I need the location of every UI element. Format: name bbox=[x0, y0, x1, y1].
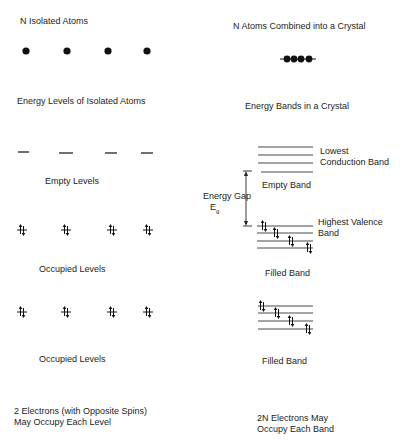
occupied-levels-label-lower: Occupied Levels bbox=[39, 354, 106, 364]
empty-levels bbox=[18, 152, 153, 153]
filled-band-label-upper: Filled Band bbox=[265, 268, 310, 278]
conduction-band-lines bbox=[258, 147, 313, 172]
energy-gap-subscript: g bbox=[216, 208, 219, 214]
crystal-bands-heading: Energy Bands in a Crystal bbox=[245, 101, 349, 111]
isolated-footer-line2: May Occupy Each Level bbox=[14, 417, 111, 427]
isolated-footer-line1: 2 Electrons (with Opposite Spins) bbox=[14, 406, 147, 416]
crystal-footer-line2: Occupy Each Band bbox=[257, 424, 334, 434]
crystal-title: N Atoms Combined into a Crystal bbox=[233, 21, 366, 31]
conduction-band-label-line2: Conduction Band bbox=[320, 157, 389, 167]
conduction-band-label-line1: Lowest bbox=[320, 146, 349, 156]
filled-band-label-lower: Filled Band bbox=[262, 356, 307, 366]
empty-levels-label: Empty Levels bbox=[45, 176, 99, 186]
crystal-footer-line1: 2N Electrons May bbox=[257, 413, 328, 423]
isolated-atoms bbox=[22, 47, 150, 54]
energy-gap-label: Energy Gap bbox=[203, 191, 251, 201]
occupied-levels-lower bbox=[17, 306, 153, 318]
empty-band-label: Empty Band bbox=[262, 180, 311, 190]
energy-gap-symbol: Eg bbox=[210, 202, 219, 216]
occupied-levels-upper bbox=[17, 224, 153, 236]
valence-band-label-line2: Band bbox=[318, 228, 339, 238]
isolated-atoms-title: N Isolated Atoms bbox=[20, 16, 88, 26]
crystal-atoms bbox=[280, 56, 316, 63]
isolated-levels-heading: Energy Levels of Isolated Atoms bbox=[17, 96, 146, 106]
valence-band-label-line1: Highest Valence bbox=[318, 217, 383, 227]
valence-band bbox=[257, 220, 313, 254]
occupied-levels-label-upper: Occupied Levels bbox=[39, 264, 106, 274]
lower-filled-band bbox=[258, 300, 313, 335]
